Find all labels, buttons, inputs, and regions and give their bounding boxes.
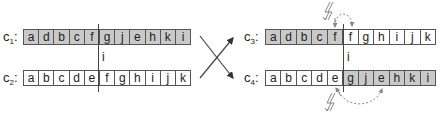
crossover-x-icon <box>200 36 233 78</box>
swap-arrow-top <box>335 14 352 26</box>
lightning-icon-bottom <box>325 93 335 111</box>
diagram-overlay <box>0 0 441 119</box>
swap-arrow-bottom <box>337 88 382 104</box>
lightning-icon-top <box>323 2 333 20</box>
